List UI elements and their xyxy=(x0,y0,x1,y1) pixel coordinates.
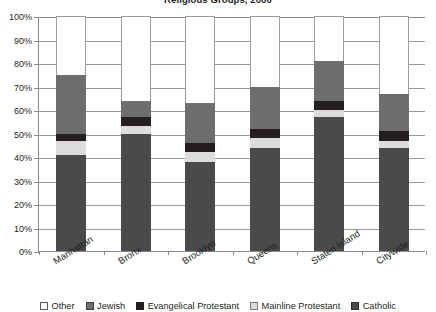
segment-jewish[interactable] xyxy=(121,101,151,117)
segment-evangelical[interactable] xyxy=(121,117,151,126)
legend-item-jewish[interactable]: Jewish xyxy=(86,301,126,311)
segment-jewish[interactable] xyxy=(56,75,86,134)
y-axis-tick xyxy=(34,135,39,136)
x-axis-tick xyxy=(297,251,298,255)
bar-brooklyn[interactable] xyxy=(185,16,215,251)
bar-staten-island[interactable] xyxy=(314,16,344,251)
x-axis-tick xyxy=(104,251,105,255)
y-axis-label: 60% xyxy=(14,106,32,116)
y-axis-tick xyxy=(34,182,39,183)
plot-area: 0%10%20%30%40%50%60%70%80%90%100% xyxy=(38,17,425,252)
legend-item-evangelical[interactable]: Evangelical Protestant xyxy=(136,301,239,311)
gridline-50% xyxy=(39,135,425,136)
segment-other[interactable] xyxy=(250,16,280,87)
y-axis-label: 30% xyxy=(14,177,32,187)
gridline-90% xyxy=(39,41,425,42)
segment-jewish[interactable] xyxy=(314,61,344,101)
y-axis-tick xyxy=(34,158,39,159)
y-axis-label: 40% xyxy=(14,153,32,163)
gridline-80% xyxy=(39,64,425,65)
segment-other[interactable] xyxy=(185,16,215,103)
segment-catholic[interactable] xyxy=(121,134,151,252)
bar-citywide[interactable] xyxy=(379,16,409,251)
segment-jewish[interactable] xyxy=(379,94,409,132)
segment-mainline[interactable] xyxy=(250,138,280,147)
y-axis-tick xyxy=(34,17,39,18)
legend-label: Evangelical Protestant xyxy=(148,301,239,311)
gridline-10% xyxy=(39,229,425,230)
stacked-bar-chart: Religious Groups, 2000 0%10%20%30%40%50%… xyxy=(0,0,436,312)
bar-bronx[interactable] xyxy=(121,16,151,251)
segment-catholic[interactable] xyxy=(379,148,409,251)
y-axis-tick xyxy=(34,229,39,230)
segment-catholic[interactable] xyxy=(250,148,280,251)
y-axis-label: 20% xyxy=(14,200,32,210)
segment-other[interactable] xyxy=(379,16,409,94)
y-axis-tick xyxy=(34,111,39,112)
x-axis-tick xyxy=(168,251,169,255)
x-axis-tick xyxy=(426,251,427,255)
legend-label: Jewish xyxy=(97,301,125,311)
legend-swatch-mainline xyxy=(250,302,258,310)
segment-mainline[interactable] xyxy=(185,152,215,161)
legend-swatch-evangelical xyxy=(136,302,144,310)
segment-other[interactable] xyxy=(314,16,344,61)
legend-swatch-catholic xyxy=(351,302,359,310)
segment-mainline[interactable] xyxy=(379,141,409,148)
chart-legend: OtherJewishEvangelical ProtestantMainlin… xyxy=(0,301,436,311)
y-axis-label: 90% xyxy=(14,36,32,46)
y-axis-tick xyxy=(34,205,39,206)
segment-evangelical[interactable] xyxy=(314,101,344,110)
bar-manhattan[interactable] xyxy=(56,16,86,251)
segment-evangelical[interactable] xyxy=(56,134,86,141)
segment-mainline[interactable] xyxy=(56,141,86,155)
legend-label: Other xyxy=(52,301,75,311)
chart-title: Religious Groups, 2000 xyxy=(0,0,436,5)
gridline-40% xyxy=(39,158,425,159)
segment-jewish[interactable] xyxy=(185,103,215,143)
segment-other[interactable] xyxy=(56,16,86,75)
legend-label: Mainline Protestant xyxy=(262,301,341,311)
gridline-100% xyxy=(39,17,425,18)
y-axis-tick xyxy=(34,41,39,42)
segment-mainline[interactable] xyxy=(314,110,344,117)
legend-swatch-other xyxy=(40,302,48,310)
legend-item-other[interactable]: Other xyxy=(40,301,74,311)
y-axis-tick xyxy=(34,64,39,65)
segment-mainline[interactable] xyxy=(121,126,151,133)
y-axis-label: 10% xyxy=(14,224,32,234)
segment-evangelical[interactable] xyxy=(185,143,215,152)
gridline-60% xyxy=(39,111,425,112)
segment-catholic[interactable] xyxy=(314,117,344,251)
x-axis-tick xyxy=(233,251,234,255)
y-axis-label: 0% xyxy=(19,247,32,257)
legend-item-catholic[interactable]: Catholic xyxy=(351,301,396,311)
legend-label: Catholic xyxy=(363,301,396,311)
gridline-20% xyxy=(39,205,425,206)
segment-other[interactable] xyxy=(121,16,151,101)
gridline-70% xyxy=(39,88,425,89)
segment-jewish[interactable] xyxy=(250,87,280,129)
y-axis-label: 80% xyxy=(14,59,32,69)
gridline-30% xyxy=(39,182,425,183)
x-axis-tick xyxy=(39,251,40,255)
segment-evangelical[interactable] xyxy=(379,131,409,140)
y-axis-label: 50% xyxy=(14,130,32,140)
y-axis-label: 100% xyxy=(9,12,32,22)
legend-swatch-jewish xyxy=(86,302,94,310)
y-axis-label: 70% xyxy=(14,83,32,93)
y-axis-tick xyxy=(34,88,39,89)
segment-evangelical[interactable] xyxy=(250,129,280,138)
x-axis-tick xyxy=(362,251,363,255)
bar-queens[interactable] xyxy=(250,16,280,251)
legend-item-mainline[interactable]: Mainline Protestant xyxy=(250,301,340,311)
